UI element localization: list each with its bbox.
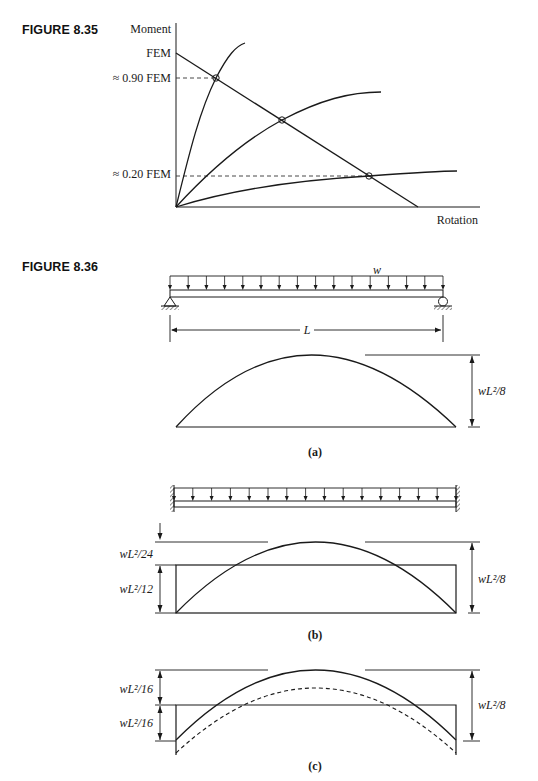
moment-parabola-a [176, 355, 456, 427]
label-a-height: wL²/8 [478, 384, 506, 398]
load-arrow-head-icon [191, 496, 195, 501]
load-arrow-head-icon [168, 285, 172, 290]
load-arrow-head-icon [341, 496, 345, 501]
load-arrow-head-icon [223, 285, 227, 290]
load-label-w: w [373, 263, 381, 277]
label-c-upper: wL²/16 [119, 682, 153, 696]
panel-a: w L wL²/8 (a) [161, 263, 506, 459]
caption-c: (c) [308, 759, 321, 773]
label-c-height: wL²/8 [478, 698, 506, 712]
load-arrow-head-icon [241, 285, 245, 290]
load-arrow-head-icon [247, 496, 251, 501]
load-arrow-head-icon [204, 285, 208, 290]
y-tick-020-fem: ≈ 0.20 FEM [113, 167, 172, 181]
load-arrow-head-icon [416, 496, 420, 501]
curve-medium-connection [176, 92, 381, 207]
load-arrow-head-icon [210, 496, 214, 501]
span-label: L [303, 323, 311, 337]
roller-support-icon [439, 297, 448, 306]
ground-hatch-right [434, 306, 452, 310]
beam-line [176, 53, 418, 207]
load-arrow-head-icon [368, 285, 372, 290]
label-c-lower: wL²/16 [119, 716, 153, 730]
distributed-load-arrows-b [172, 488, 458, 501]
load-arrow-head-icon [398, 496, 402, 501]
load-arrow-head-icon [304, 496, 308, 501]
caption-a: (a) [308, 445, 322, 459]
panel-c: wL²/16 wL²/16 wL²/8 (c) [119, 670, 505, 773]
y-tick-090-fem: ≈ 0.90 FEM [113, 71, 172, 85]
figures-canvas: Moment Rotation FEM ≈ 0.90 FEM ≈ 0.20 FE… [0, 0, 538, 781]
label-b-height: wL²/8 [478, 572, 506, 586]
load-arrow-head-icon [277, 285, 281, 290]
load-arrow-head-icon [360, 496, 364, 501]
beam-a [170, 290, 443, 297]
load-arrow-head-icon [295, 285, 299, 290]
load-arrow-head-icon [379, 496, 383, 501]
load-arrow-head-icon [405, 285, 409, 290]
load-arrow-head-icon [322, 496, 326, 501]
load-arrow-head-icon [332, 285, 336, 290]
load-arrow-head-icon [423, 285, 427, 290]
fixed-end-moment-rect-b [176, 565, 456, 613]
y-axis-label: Moment [130, 22, 171, 36]
panel-b: wL²/24 wL²/12 wL²/8 (b) [119, 485, 505, 642]
load-arrow-head-icon [350, 285, 354, 290]
moment-parabola-c-dashed [176, 688, 456, 753]
moment-parabola-b [176, 542, 456, 613]
load-arrow-head-icon [314, 285, 318, 290]
load-arrow-head-icon [285, 496, 289, 501]
beam-b [174, 501, 456, 507]
curve-stiff-connection [176, 43, 245, 207]
load-arrow-head-icon [228, 496, 232, 501]
label-b-lower: wL²/12 [119, 582, 153, 596]
moment-rotation-chart: Moment Rotation FEM ≈ 0.90 FEM ≈ 0.20 FE… [113, 22, 480, 227]
ground-hatch-left [161, 306, 179, 310]
load-arrow-head-icon [266, 496, 270, 501]
load-arrow-head-icon [186, 285, 190, 290]
y-tick-fem: FEM [146, 46, 171, 60]
x-axis-label: Rotation [437, 213, 478, 227]
label-b-upper: wL²/24 [119, 547, 153, 561]
caption-b: (b) [308, 628, 323, 642]
end-moment-rect-c [176, 705, 456, 755]
load-arrow-head-icon [435, 496, 439, 501]
load-arrow-head-icon [259, 285, 263, 290]
pin-support-icon [164, 297, 176, 306]
distributed-load-arrows [168, 276, 445, 290]
load-arrow-head-icon [441, 285, 445, 290]
load-arrow-head-icon [386, 285, 390, 290]
